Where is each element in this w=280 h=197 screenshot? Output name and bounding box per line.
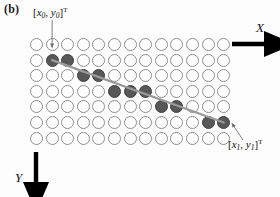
end-x-sub: 1 (237, 143, 241, 152)
pixel-empty[interactable] (217, 38, 230, 51)
pixel-empty[interactable] (124, 116, 137, 129)
pixel-filled[interactable] (124, 85, 137, 98)
pixel-empty[interactable] (170, 85, 183, 98)
pixel-empty[interactable] (108, 38, 121, 51)
pixel-empty[interactable] (217, 85, 230, 98)
pixel-empty[interactable] (170, 54, 183, 67)
pixel-empty[interactable] (124, 54, 137, 67)
pixel-empty[interactable] (202, 85, 215, 98)
pixel-empty[interactable] (139, 132, 152, 145)
start-point-label: [x0, y0]T (33, 6, 67, 20)
pixel-empty[interactable] (30, 116, 43, 129)
pixel-empty[interactable] (217, 100, 230, 113)
pixel-empty[interactable] (186, 54, 199, 67)
pixel-empty[interactable] (202, 38, 215, 51)
end-y-sub: 1 (251, 143, 255, 152)
pixel-empty[interactable] (46, 116, 59, 129)
pixel-empty[interactable] (155, 85, 168, 98)
pixel-empty[interactable] (139, 69, 152, 82)
start-y-sub: 0 (56, 11, 60, 20)
pixel-empty[interactable] (61, 69, 74, 82)
pixel-filled[interactable] (155, 100, 168, 113)
pixel-empty[interactable] (124, 38, 137, 51)
pixel-empty[interactable] (92, 116, 105, 129)
pixel-empty[interactable] (61, 116, 74, 129)
pixel-empty[interactable] (202, 100, 215, 113)
pixel-empty[interactable] (92, 100, 105, 113)
pixel-empty[interactable] (61, 100, 74, 113)
pixel-empty[interactable] (46, 69, 59, 82)
y-axis-label: Y (15, 170, 22, 186)
pixel-empty[interactable] (92, 54, 105, 67)
pixel-empty[interactable] (170, 69, 183, 82)
pixel-empty[interactable] (186, 132, 199, 145)
pixel-filled[interactable] (108, 85, 121, 98)
pixel-empty[interactable] (202, 132, 215, 145)
pixel-filled[interactable] (217, 116, 230, 129)
figure-panel: (b) X Y [x0, y0]T [x1, y1]T (0, 0, 280, 197)
pixel-empty[interactable] (77, 132, 90, 145)
pixel-filled[interactable] (77, 69, 90, 82)
pixel-empty[interactable] (155, 132, 168, 145)
pixel-empty[interactable] (155, 69, 168, 82)
pixel-empty[interactable] (46, 100, 59, 113)
pixel-empty[interactable] (61, 132, 74, 145)
end-transpose: T (258, 138, 262, 146)
pixel-empty[interactable] (155, 54, 168, 67)
pixel-empty[interactable] (108, 54, 121, 67)
pixel-empty[interactable] (108, 132, 121, 145)
pixel-empty[interactable] (186, 85, 199, 98)
pixel-empty[interactable] (61, 38, 74, 51)
pixel-filled[interactable] (139, 85, 152, 98)
pixel-empty[interactable] (77, 100, 90, 113)
pixel-empty[interactable] (77, 38, 90, 51)
pixel-empty[interactable] (155, 38, 168, 51)
pixel-filled[interactable] (46, 54, 59, 67)
pixel-empty[interactable] (61, 85, 74, 98)
pixel-empty[interactable] (186, 100, 199, 113)
pixel-empty[interactable] (124, 69, 137, 82)
pixel-empty[interactable] (77, 85, 90, 98)
pixel-empty[interactable] (170, 132, 183, 145)
pixel-empty[interactable] (77, 116, 90, 129)
pixel-empty[interactable] (92, 85, 105, 98)
pixel-empty[interactable] (139, 100, 152, 113)
pixel-empty[interactable] (186, 116, 199, 129)
pixel-empty[interactable] (108, 69, 121, 82)
pixel-empty[interactable] (46, 132, 59, 145)
pixel-empty[interactable] (108, 100, 121, 113)
x-axis-label: X (256, 20, 264, 36)
pixel-empty[interactable] (77, 54, 90, 67)
pixel-empty[interactable] (108, 116, 121, 129)
start-transpose: T (63, 6, 67, 14)
pixel-empty[interactable] (30, 69, 43, 82)
pixel-empty[interactable] (30, 85, 43, 98)
pixel-empty[interactable] (186, 38, 199, 51)
pixel-filled[interactable] (61, 54, 74, 67)
pixel-empty[interactable] (30, 100, 43, 113)
pixel-empty[interactable] (30, 54, 43, 67)
pixel-empty[interactable] (124, 100, 137, 113)
pixel-empty[interactable] (217, 69, 230, 82)
pixel-empty[interactable] (30, 132, 43, 145)
pixel-empty[interactable] (92, 38, 105, 51)
pixel-empty[interactable] (139, 54, 152, 67)
pixel-empty[interactable] (202, 54, 215, 67)
pixel-filled[interactable] (170, 100, 183, 113)
pixel-empty[interactable] (124, 132, 137, 145)
pixel-empty[interactable] (30, 38, 43, 51)
pixel-empty[interactable] (170, 38, 183, 51)
panel-label: (b) (4, 2, 19, 17)
pixel-empty[interactable] (170, 116, 183, 129)
pixel-empty[interactable] (217, 54, 230, 67)
pixel-empty[interactable] (155, 116, 168, 129)
pixel-empty[interactable] (139, 38, 152, 51)
pixel-empty[interactable] (92, 132, 105, 145)
pixel-empty[interactable] (46, 85, 59, 98)
pixel-filled[interactable] (92, 69, 105, 82)
pixel-empty[interactable] (202, 69, 215, 82)
pixel-empty[interactable] (46, 38, 59, 51)
pixel-empty[interactable] (139, 116, 152, 129)
pixel-empty[interactable] (186, 69, 199, 82)
pixel-filled[interactable] (202, 116, 215, 129)
